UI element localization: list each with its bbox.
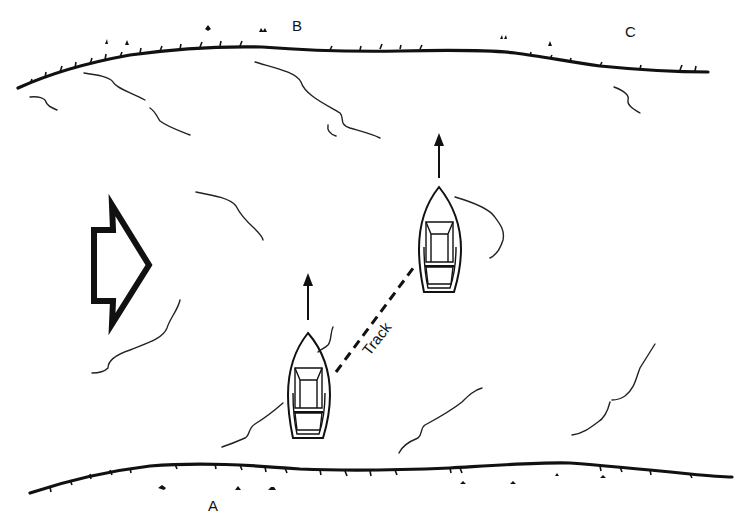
current-direction-arrow-icon <box>94 205 149 324</box>
point-b-label: B <box>292 18 302 33</box>
heading-arrow-icon <box>434 133 444 178</box>
heading-arrow-icon <box>303 273 313 320</box>
south-shore <box>30 463 732 493</box>
grass-tuft-icon <box>105 25 552 46</box>
water-waves <box>30 62 655 453</box>
grass-tuft-icon <box>158 473 606 490</box>
track-line <box>336 267 414 372</box>
river-crossing-diagram <box>0 0 748 532</box>
boat-drifted <box>419 187 461 292</box>
point-c-label: C <box>625 24 636 39</box>
point-a-label: A <box>208 498 218 513</box>
north-shore <box>18 25 708 88</box>
